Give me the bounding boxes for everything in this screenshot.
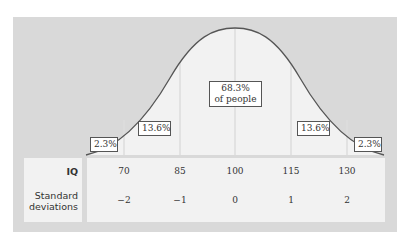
center-sub-text: of people <box>213 94 258 105</box>
table-row-labels: IQ Standard deviations <box>24 158 82 222</box>
iq-value-115: 115 <box>282 166 299 176</box>
table-values: 70 85 100 115 130 −2 −1 0 1 2 <box>87 158 385 222</box>
label-tail-right: 2.3% <box>354 137 382 152</box>
sd-value-2: 2 <box>344 195 350 205</box>
label-center: 68.3% of people <box>209 81 262 107</box>
tail-right-text: 2.3% <box>358 139 381 149</box>
sd-value-1: 1 <box>288 195 294 205</box>
mid-left-text: 13.6% <box>142 123 171 133</box>
sd-row-label-line2: deviations <box>29 201 78 212</box>
iq-value-100: 100 <box>226 166 243 176</box>
iq-value-70: 70 <box>118 166 129 176</box>
sd-value-0: 0 <box>232 195 238 205</box>
label-mid-left: 13.6% <box>138 121 171 136</box>
tail-left-text: 2.3% <box>94 139 117 149</box>
mid-right-text: 13.6% <box>301 123 330 133</box>
iq-row-label: IQ <box>66 166 78 177</box>
iq-value-130: 130 <box>338 166 355 176</box>
label-tail-left: 2.3% <box>90 137 118 152</box>
sd-value-neg1: −1 <box>173 195 186 205</box>
sd-value-neg2: −2 <box>117 195 130 205</box>
sd-row-label-line1: Standard <box>35 190 78 201</box>
iq-value-85: 85 <box>174 166 185 176</box>
center-percent-text: 68.3% <box>213 83 258 94</box>
label-mid-right: 13.6% <box>297 121 330 136</box>
